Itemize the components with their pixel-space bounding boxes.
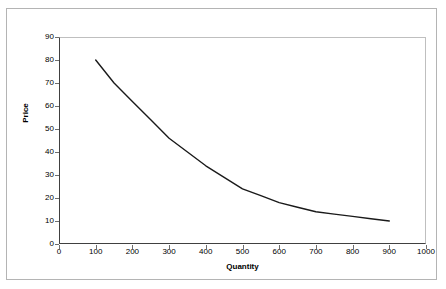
x-axis-tick-mark bbox=[96, 245, 97, 249]
y-axis-tick-label: 70 bbox=[45, 79, 54, 87]
y-axis-tick-mark bbox=[55, 129, 59, 130]
x-axis-tick-mark bbox=[316, 245, 317, 249]
x-axis-tick-labels: 01002003004005006007008009001000 bbox=[59, 248, 426, 262]
x-axis-tick-mark bbox=[279, 245, 280, 249]
y-axis-tick-label: 80 bbox=[45, 56, 54, 64]
x-axis-tick-mark bbox=[353, 245, 354, 249]
y-axis-title: Price bbox=[19, 9, 33, 216]
x-axis-tick-label: 300 bbox=[162, 248, 175, 256]
x-axis-tick-mark bbox=[389, 245, 390, 249]
x-axis-tick-mark bbox=[59, 245, 60, 249]
y-axis-tick-label: 90 bbox=[45, 33, 54, 41]
y-axis-tick-mark bbox=[55, 198, 59, 199]
chart-screenshot: 0102030405060708090 01002003004005006007… bbox=[0, 0, 446, 289]
plot-area bbox=[59, 37, 426, 244]
x-axis-tick-label: 700 bbox=[309, 248, 322, 256]
x-axis-tick-label: 400 bbox=[199, 248, 212, 256]
x-axis-tick-label: 900 bbox=[383, 248, 396, 256]
y-axis-tick-label: 30 bbox=[45, 171, 54, 179]
x-axis-title: Quantity bbox=[59, 263, 426, 271]
y-axis-tick-mark bbox=[55, 60, 59, 61]
chart-frame: 0102030405060708090 01002003004005006007… bbox=[6, 8, 437, 280]
x-axis-tick-mark bbox=[132, 245, 133, 249]
y-axis-tick-label: 50 bbox=[45, 125, 54, 133]
x-axis-tick-label: 600 bbox=[273, 248, 286, 256]
x-axis-tick-label: 500 bbox=[236, 248, 249, 256]
y-axis-tick-mark bbox=[55, 83, 59, 84]
y-axis-tick-label: 20 bbox=[45, 194, 54, 202]
y-axis-tick-mark bbox=[55, 37, 59, 38]
x-axis-tick-label: 100 bbox=[89, 248, 102, 256]
y-axis-tick-mark bbox=[55, 152, 59, 153]
y-axis-tick-mark bbox=[55, 106, 59, 107]
x-axis-tick-label: 800 bbox=[346, 248, 359, 256]
x-axis-tick-label: 200 bbox=[126, 248, 139, 256]
x-axis-tick-label: 0 bbox=[57, 248, 61, 256]
y-axis-tick-label: 0 bbox=[50, 240, 54, 248]
y-axis-tick-label: 10 bbox=[45, 217, 54, 225]
x-axis-tick-mark bbox=[243, 245, 244, 249]
y-axis-tick-mark bbox=[55, 221, 59, 222]
y-axis-tick-label: 40 bbox=[45, 148, 54, 156]
y-axis-tick-label: 60 bbox=[45, 102, 54, 110]
x-axis-tick-mark bbox=[206, 245, 207, 249]
x-axis-tick-mark bbox=[426, 245, 427, 249]
x-axis-tick-mark bbox=[169, 245, 170, 249]
y-axis-title-text: Price bbox=[22, 103, 30, 123]
y-axis-tick-mark bbox=[55, 175, 59, 176]
x-axis-tick-label: 1000 bbox=[417, 248, 435, 256]
